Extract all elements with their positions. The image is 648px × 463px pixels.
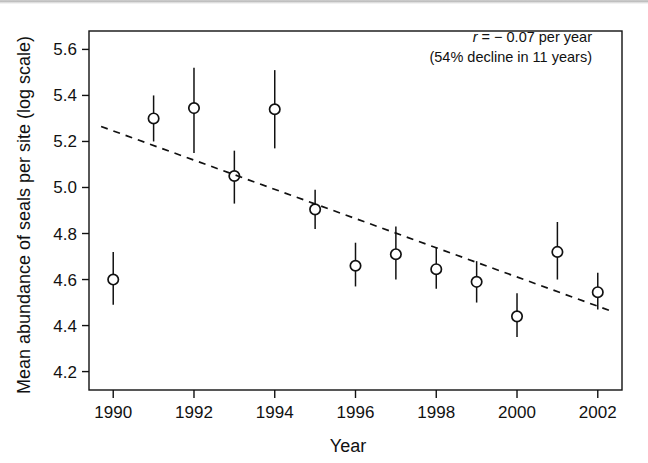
y-tick-label: 4.4 bbox=[53, 317, 77, 336]
x-axis-ticks: 1990199219941996199820002002 bbox=[94, 390, 616, 422]
x-tick-label: 2000 bbox=[498, 403, 536, 422]
data-point-marker bbox=[310, 204, 320, 214]
data-point-marker bbox=[431, 264, 441, 274]
x-axis-title: Year bbox=[330, 436, 366, 456]
y-tick-label: 4.6 bbox=[53, 271, 77, 290]
data-point-marker bbox=[270, 104, 280, 114]
data-point-marker bbox=[108, 274, 118, 284]
data-point-marker bbox=[391, 249, 401, 259]
data-markers-group bbox=[108, 103, 603, 322]
annotation-slope: r = − 0.07 per year bbox=[473, 29, 592, 45]
y-tick-label: 5.4 bbox=[53, 86, 77, 105]
x-tick-label: 1990 bbox=[94, 403, 132, 422]
data-point-marker bbox=[593, 287, 603, 297]
x-tick-label: 2002 bbox=[579, 403, 617, 422]
chart-figure: 4.24.44.64.85.05.25.45.6 199019921994199… bbox=[0, 0, 648, 463]
data-point-marker bbox=[189, 103, 199, 113]
x-tick-label: 1998 bbox=[417, 403, 455, 422]
annotation-decline: (54% decline in 11 years) bbox=[429, 49, 592, 65]
annotation-slope-value: = − 0.07 per year bbox=[478, 29, 593, 45]
x-tick-label: 1996 bbox=[337, 403, 375, 422]
error-bars-group bbox=[113, 68, 598, 337]
y-tick-label: 5.6 bbox=[53, 40, 77, 59]
page-scan-edge-secondary bbox=[0, 3, 648, 4]
y-axis-title: Mean abundance of seals per site (log sc… bbox=[14, 36, 34, 394]
data-point-marker bbox=[350, 261, 360, 271]
data-point-marker bbox=[512, 311, 522, 321]
x-tick-label: 1992 bbox=[175, 403, 213, 422]
y-tick-label: 4.8 bbox=[53, 225, 77, 244]
data-point-marker bbox=[148, 113, 158, 123]
y-tick-label: 4.2 bbox=[53, 363, 77, 382]
axis-frame bbox=[89, 31, 622, 390]
scatter-plot-canvas: 4.24.44.64.85.05.25.45.6 199019921994199… bbox=[0, 0, 648, 463]
y-axis-ticks: 4.24.44.64.85.05.25.45.6 bbox=[53, 40, 89, 381]
y-tick-label: 5.2 bbox=[53, 132, 77, 151]
y-tick-label: 5.0 bbox=[53, 178, 77, 197]
data-point-marker bbox=[471, 277, 481, 287]
x-tick-label: 1994 bbox=[256, 403, 294, 422]
data-point-marker bbox=[552, 247, 562, 257]
